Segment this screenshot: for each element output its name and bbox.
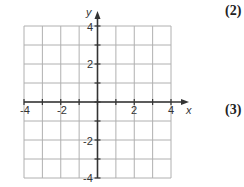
problem-number-3: (3)	[225, 102, 241, 118]
y-tick-label: 4	[87, 21, 93, 33]
y-axis-label: y	[85, 6, 93, 18]
x-tick-label: 2	[131, 104, 137, 116]
axis-labels: x y -4 -2 2 4 4 2 -2 -4	[20, 6, 192, 184]
y-tick-label: 2	[87, 58, 93, 70]
x-tick-label: -2	[57, 104, 67, 116]
x-axis-label: x	[185, 104, 192, 116]
y-tick-label: -2	[83, 135, 93, 147]
y-tick-label: -4	[83, 172, 93, 184]
problem-number-2: (2)	[225, 3, 241, 19]
coordinate-plane: x y -4 -2 2 4 4 2 -2 -4	[0, 0, 244, 187]
axes	[24, 11, 189, 178]
x-tick-label: 4	[168, 104, 174, 116]
y-axis-arrow-icon	[95, 11, 101, 19]
x-tick-label: -4	[20, 104, 30, 116]
